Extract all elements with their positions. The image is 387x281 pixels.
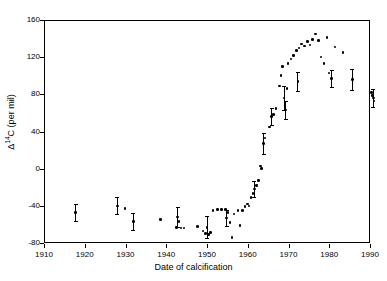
data-point — [281, 65, 284, 68]
error-bar-cap — [225, 226, 229, 227]
data-point — [237, 209, 240, 212]
y-tick-label: 40 — [16, 127, 40, 136]
x-tick-label: 1980 — [313, 250, 345, 259]
x-axis-label: Date of calcification — [0, 262, 387, 272]
error-bar-cap — [262, 154, 266, 155]
data-point — [295, 49, 298, 52]
figure-container: -80-4004080120160 1910192019301940195019… — [0, 0, 387, 281]
data-point — [372, 97, 375, 100]
data-point — [317, 39, 320, 42]
error-bar-cap — [296, 91, 300, 92]
y-tick-mark — [40, 132, 44, 133]
data-point — [330, 77, 333, 80]
x-tick-label: 1910 — [28, 250, 60, 259]
error-bar-cap — [330, 87, 334, 88]
data-point — [275, 107, 278, 110]
data-point — [306, 40, 309, 43]
error-bar-cap — [131, 230, 135, 231]
error-bar-cap — [371, 107, 375, 108]
error-bar-cap — [252, 181, 256, 182]
y-tick-mark — [40, 206, 44, 207]
x-tick-label: 1970 — [273, 250, 305, 259]
data-point — [314, 33, 317, 36]
data-point — [159, 218, 162, 221]
error-bar-cap — [350, 90, 354, 91]
error-bar-cap — [270, 108, 274, 109]
x-tick-mark — [207, 244, 208, 248]
x-tick-mark — [370, 244, 371, 248]
data-point — [196, 225, 199, 228]
error-bar-cap — [205, 238, 209, 239]
x-tick-mark — [289, 244, 290, 248]
y-tick-mark — [40, 57, 44, 58]
error-bar-cap — [176, 207, 180, 208]
x-tick-label: 1990 — [354, 250, 386, 259]
error-bar-cap — [270, 125, 274, 126]
y-tick-label: 0 — [16, 164, 40, 173]
error-bar-cap — [74, 204, 78, 205]
data-point — [326, 36, 329, 39]
data-point — [262, 142, 265, 145]
error-bar-cap — [131, 213, 135, 214]
data-point — [74, 211, 77, 214]
error-bar-cap — [330, 70, 334, 71]
x-tick-mark — [85, 244, 86, 248]
error-bar-cap — [350, 69, 354, 70]
y-tick-label: 80 — [16, 89, 40, 98]
x-tick-label: 1960 — [232, 250, 264, 259]
data-point — [220, 208, 223, 211]
data-point — [225, 217, 228, 220]
x-tick-label: 1950 — [191, 250, 223, 259]
y-tick-mark — [40, 169, 44, 170]
plot-frame — [44, 20, 370, 243]
error-bar-cap — [296, 72, 300, 73]
y-axis-label-delta: Δ — [6, 143, 16, 149]
data-point — [209, 231, 212, 234]
data-point — [255, 184, 258, 187]
y-tick-label: -80 — [16, 238, 40, 247]
x-tick-mark — [248, 244, 249, 248]
data-point — [278, 85, 281, 88]
error-bar-cap — [115, 214, 119, 215]
y-tick-mark — [40, 20, 44, 21]
data-point — [241, 209, 244, 212]
data-point — [239, 224, 242, 227]
y-tick-label: -40 — [16, 201, 40, 210]
error-bar-cap — [115, 197, 119, 198]
x-tick-label: 1920 — [69, 250, 101, 259]
data-point — [229, 221, 232, 224]
x-tick-label: 1940 — [150, 250, 182, 259]
y-tick-label: 120 — [16, 52, 40, 61]
y-axis-label-superscript: 14 — [4, 136, 11, 143]
y-tick-label: 160 — [16, 15, 40, 24]
data-point — [292, 54, 295, 57]
x-tick-mark — [44, 244, 45, 248]
data-point — [272, 113, 275, 116]
x-tick-mark — [329, 244, 330, 248]
data-point — [116, 205, 119, 208]
error-bar-cap — [252, 197, 256, 198]
data-point — [178, 220, 181, 223]
error-bar-cap — [262, 133, 266, 134]
x-tick-mark — [126, 244, 127, 248]
x-tick-mark — [166, 244, 167, 248]
y-axis-label-units: C (per mil) — [6, 94, 16, 136]
x-tick-label: 1930 — [110, 250, 142, 259]
data-point — [260, 167, 263, 170]
error-bar-cap — [205, 216, 209, 217]
error-bar-cap — [284, 119, 288, 120]
error-bar-cap — [371, 89, 375, 90]
data-point — [216, 208, 219, 211]
error-bar-cap — [74, 221, 78, 222]
data-point — [132, 220, 135, 223]
data-point — [373, 100, 376, 103]
data-point — [297, 80, 300, 83]
data-point — [311, 38, 314, 41]
data-point — [257, 179, 260, 182]
y-axis-label: Δ14C (per mil) — [2, 0, 18, 243]
data-point — [206, 226, 209, 229]
error-bar-cap — [284, 101, 288, 102]
data-point — [231, 236, 234, 239]
y-tick-mark — [40, 94, 44, 95]
data-point — [351, 78, 354, 81]
